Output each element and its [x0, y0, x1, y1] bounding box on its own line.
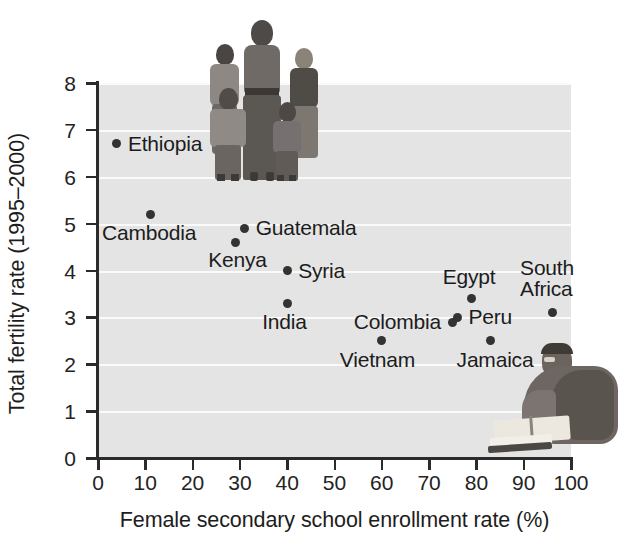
x-tick-20 — [192, 459, 195, 470]
y-tick-label-4: 4 — [50, 261, 76, 282]
point-label-jamaica: Jamaica — [457, 349, 534, 371]
y-tick-8 — [86, 82, 97, 85]
point-label-colombia: Colombia — [354, 311, 441, 333]
x-tick-label-10: 10 — [134, 472, 157, 493]
x-axis-title: Female secondary school enrollment rate … — [98, 508, 571, 533]
y-tick-label-1: 1 — [50, 401, 76, 422]
point-label-ethiopia: Ethiopia — [128, 133, 202, 155]
y-tick-3 — [86, 316, 97, 319]
y-axis-title: Total fertility rate (1995–2000) — [0, 0, 34, 547]
y-tick-label-3: 3 — [50, 307, 76, 328]
x-tick-30 — [239, 459, 242, 470]
y-tick-1 — [86, 410, 97, 413]
x-tick-80 — [475, 459, 478, 470]
x-tick-label-70: 70 — [417, 472, 440, 493]
x-tick-label-90: 90 — [512, 472, 535, 493]
x-tick-label-50: 50 — [323, 472, 346, 493]
y-tick-label-7: 7 — [50, 120, 76, 141]
y-tick-4 — [86, 270, 97, 273]
y-tick-6 — [86, 176, 97, 179]
x-tick-label-80: 80 — [465, 472, 488, 493]
y-tick-2 — [86, 363, 97, 366]
x-tick-100 — [570, 459, 573, 470]
point-label-south-africa: South Africa — [520, 257, 574, 300]
data-point-india[interactable] — [283, 299, 292, 308]
x-tick-label-40: 40 — [276, 472, 299, 493]
x-tick-label-100: 100 — [553, 472, 588, 493]
y-tick-0 — [86, 457, 97, 460]
point-label-syria: Syria — [298, 260, 345, 282]
x-tick-60 — [381, 459, 384, 470]
point-label-india: India — [262, 311, 307, 333]
y-tick-label-8: 8 — [50, 73, 76, 94]
data-point-cambodia[interactable] — [146, 210, 155, 219]
x-tick-label-30: 30 — [228, 472, 251, 493]
y-tick-7 — [86, 129, 97, 132]
x-tick-label-20: 20 — [181, 472, 204, 493]
y-tick-label-0: 0 — [50, 448, 76, 469]
x-tick-70 — [428, 459, 431, 470]
x-tick-0 — [97, 459, 100, 470]
x-tick-90 — [523, 459, 526, 470]
point-label-egypt: Egypt — [443, 266, 496, 288]
data-point-guatemala[interactable] — [240, 224, 249, 233]
x-tick-40 — [286, 459, 289, 470]
chart-figure: Total fertility rate (1995–2000) Female … — [0, 0, 625, 547]
x-tick-label-60: 60 — [370, 472, 393, 493]
point-label-guatemala: Guatemala — [256, 217, 357, 239]
point-label-vietnam: Vietnam — [340, 349, 415, 371]
x-tick-50 — [334, 459, 337, 470]
data-point-south-africa[interactable] — [548, 308, 557, 317]
x-tick-label-0: 0 — [92, 472, 104, 493]
y-tick-label-5: 5 — [50, 214, 76, 235]
point-label-kenya: Kenya — [208, 249, 267, 271]
x-tick-10 — [144, 459, 147, 470]
data-point-colombia[interactable] — [448, 318, 457, 327]
y-tick-label-2: 2 — [50, 354, 76, 375]
y-tick-label-6: 6 — [50, 167, 76, 188]
point-label-cambodia: Cambodia — [102, 222, 196, 244]
point-label-peru: Peru — [468, 306, 512, 328]
data-point-kenya[interactable] — [231, 238, 240, 247]
family-group-photo — [196, 2, 346, 180]
y-tick-5 — [86, 223, 97, 226]
data-point-syria[interactable] — [283, 266, 292, 275]
